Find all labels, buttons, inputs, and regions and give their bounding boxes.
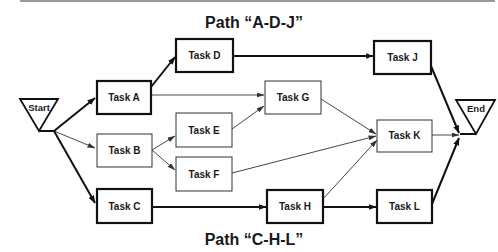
- edge-start-c: [54, 131, 95, 203]
- task-l-label: Task L: [389, 201, 420, 212]
- edge-g-k: [321, 99, 376, 134]
- task-node-a: Task A: [97, 81, 151, 114]
- task-node-f: Task F: [176, 157, 232, 191]
- task-h-label: Task H: [279, 201, 311, 212]
- edge-start-a: [54, 98, 95, 131]
- task-node-l: Task L: [377, 190, 432, 223]
- task-node-h: Task H: [267, 190, 323, 223]
- task-d-label: Task D: [188, 50, 220, 61]
- path-adj-title: Path “A-D-J”: [205, 14, 303, 31]
- task-b-label: Task B: [108, 145, 140, 156]
- edge-a-d: [151, 57, 175, 87]
- edge-f-k: [232, 136, 376, 173]
- end-terminal: End: [456, 100, 495, 134]
- edge-e-g: [232, 106, 264, 129]
- edge-start-b: [54, 131, 95, 148]
- task-node-c: Task C: [97, 189, 152, 223]
- task-f-label: Task F: [189, 169, 220, 180]
- task-node-k: Task K: [377, 120, 432, 152]
- edge-h-k: [323, 140, 377, 199]
- task-a-label: Task A: [108, 92, 140, 103]
- path-chl-title: Path “C-H-L”: [205, 231, 304, 248]
- start-label: Start: [28, 102, 50, 113]
- task-k-label: Task K: [388, 130, 421, 141]
- task-node-g: Task G: [265, 81, 321, 114]
- task-node-b: Task B: [97, 134, 152, 167]
- end-label: End: [467, 103, 485, 114]
- task-node-e: Task E: [176, 113, 232, 147]
- edge-b-e: [152, 136, 175, 150]
- task-g-label: Task G: [277, 92, 310, 103]
- edge-b-f: [152, 150, 175, 170]
- task-e-label: Task E: [188, 125, 220, 136]
- task-c-label: Task C: [108, 201, 140, 212]
- task-node-j: Task J: [374, 41, 431, 74]
- task-node-d: Task D: [176, 39, 233, 72]
- network-diagram: Path “A-D-J” Path “C-H-L”: [0, 0, 498, 252]
- edge-l-end: [432, 138, 459, 204]
- task-j-label: Task J: [387, 52, 417, 63]
- start-terminal: Start: [20, 99, 58, 131]
